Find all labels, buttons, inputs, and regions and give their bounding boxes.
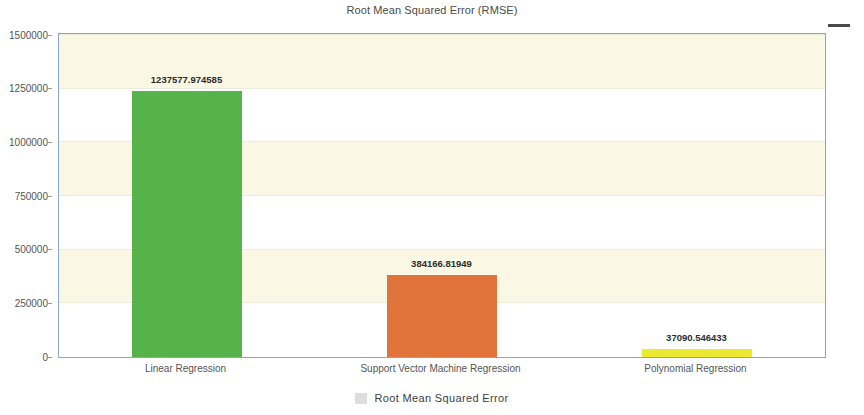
x-tick-label: Support Vector Machine Regression [360, 363, 520, 374]
x-tick-label: Linear Regression [145, 363, 226, 374]
y-tick-label: 1000000 [9, 136, 48, 147]
y-tick-label: 1500000 [9, 29, 48, 40]
legend-item-label: Root Mean Squared Error [374, 392, 508, 404]
y-tick-label: 1250000 [9, 83, 48, 94]
rmse-bar-chart-widget: Root Mean Squared Error (RMSE) 025000050… [0, 0, 864, 415]
chart-title: Root Mean Squared Error (RMSE) [0, 4, 864, 16]
x-tick-label: Polynomial Regression [644, 363, 746, 374]
hamburger-menu-icon[interactable] [828, 9, 850, 27]
hamburger-bar [828, 24, 850, 27]
gridline [59, 88, 825, 89]
y-axis: 0250000500000750000100000012500001500000 [0, 33, 52, 358]
y-tick-label: 250000 [15, 297, 48, 308]
bar-1[interactable] [387, 275, 497, 357]
bar-2[interactable] [642, 349, 752, 357]
y-tick-mark [48, 142, 52, 143]
y-tick-mark [48, 88, 52, 89]
legend-marker-icon [355, 393, 367, 404]
y-tick-mark [48, 196, 52, 197]
bar-0[interactable] [132, 91, 242, 357]
chart-legend: Root Mean Squared Error [0, 392, 864, 404]
gridline [59, 34, 825, 35]
bar-value-label: 37090.546433 [666, 332, 727, 343]
bar-value-label: 1237577.974585 [151, 74, 222, 85]
y-tick-label: 750000 [15, 190, 48, 201]
y-tick-mark [48, 249, 52, 250]
bar-value-label: 384166.81949 [411, 258, 472, 269]
y-tick-mark [48, 357, 52, 358]
plot-area: 1237577.974585384166.8194937090.546433 [58, 33, 826, 358]
x-axis: Linear RegressionSupport Vector Machine … [58, 363, 826, 383]
y-tick-label: 500000 [15, 244, 48, 255]
y-tick-mark [48, 35, 52, 36]
y-tick-mark [48, 303, 52, 304]
